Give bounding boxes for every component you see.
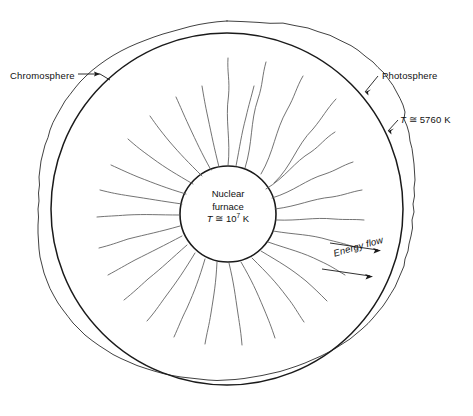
core-label-line1: Nuclear: [180, 188, 276, 201]
convection-streak: [245, 62, 266, 168]
nuclear-furnace-label: Nuclear furnace T ≅ 107 K: [180, 188, 276, 226]
convection-streak: [261, 76, 303, 174]
photosphere-leader-icon: [365, 76, 378, 95]
core-temperature: T ≅ 107 K: [180, 213, 276, 226]
convection-streak: [100, 190, 182, 204]
convection-streak: [202, 86, 219, 167]
convection-streak: [252, 258, 304, 322]
energy-flow-arrow-lower-icon: [322, 269, 373, 280]
convection-streak: [147, 253, 195, 321]
convection-streak: [276, 218, 364, 220]
convection-streak: [261, 251, 327, 301]
convection-streak: [205, 262, 217, 344]
convection-streak: [174, 259, 205, 337]
chromosphere-label: Chromosphere: [10, 70, 75, 81]
core-temperature-symbol: T: [207, 213, 213, 224]
convection-streak: [272, 162, 353, 198]
convection-streak: [111, 165, 186, 194]
surface-temperature-symbol: T: [400, 114, 406, 125]
convection-streak: [229, 263, 242, 345]
convection-streak: [150, 116, 202, 176]
convection-streak: [97, 215, 180, 217]
surface-temperature-label: T ≅ 5760 K: [400, 114, 451, 125]
core-temperature-unit: K: [243, 213, 249, 224]
convection-streak: [124, 245, 187, 300]
photosphere-label: Photosphere: [382, 70, 438, 81]
sun-structure-diagram: Chromosphere Photosphere T ≅ 5760 K Ener…: [0, 0, 473, 416]
convection-streak: [227, 58, 229, 166]
core-temperature-exponent: 7: [237, 212, 241, 219]
surface-temperature-value: ≅ 5760 K: [409, 114, 451, 125]
convection-streak: [275, 190, 362, 209]
core-temperature-prefix: ≅ 10: [215, 213, 236, 224]
convection-streak: [99, 226, 180, 248]
surface-temperature-leader-icon: [388, 120, 398, 134]
core-label-line2: furnace: [180, 201, 276, 214]
convection-streak: [274, 99, 336, 183]
convection-streak: [241, 262, 275, 338]
convection-streak: [236, 86, 254, 166]
